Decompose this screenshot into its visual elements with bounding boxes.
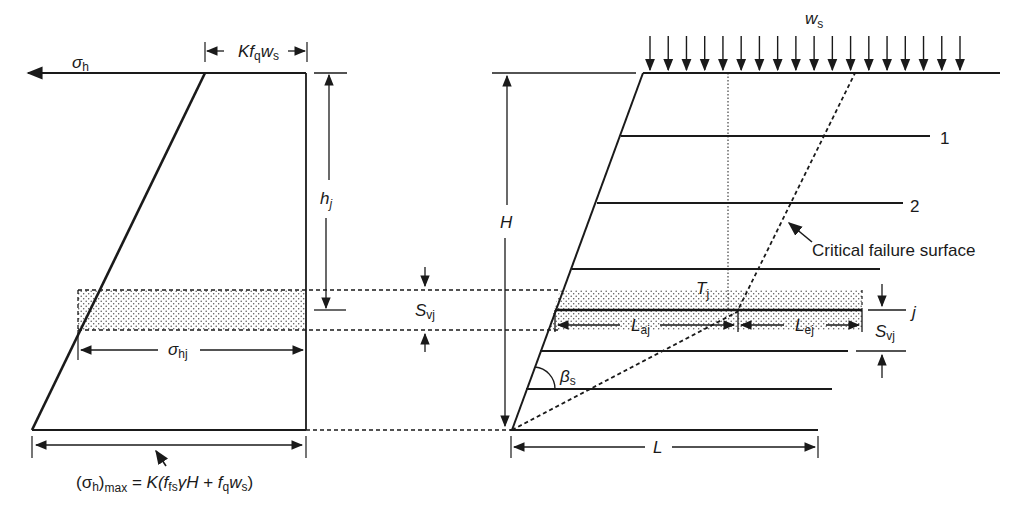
ws-label: ws: [805, 9, 823, 31]
H-label: H: [500, 213, 513, 232]
svj-label-right: Svj: [875, 322, 895, 343]
failure-surface-pointer: [789, 223, 812, 242]
sigma-hj-label: σhj: [168, 340, 188, 361]
svj-label-middle: Svj: [415, 301, 435, 322]
layer-label-1: 1: [940, 129, 949, 148]
mse-wall-diagram: σh Kfqws hj σhj (σh)max = K(ffsγH + fqws…: [0, 0, 1025, 514]
wall-facing-line: [512, 73, 643, 430]
Tj-label: Tj: [696, 279, 709, 301]
right-wall-diagram: ws H 1 2 j Critical failure surface Tj: [492, 9, 1000, 458]
kfqws-label: Kfqws: [238, 42, 279, 63]
L-label: L: [653, 438, 662, 457]
max-pointer-arrow: [156, 451, 166, 466]
layer-label-2: 2: [910, 197, 919, 216]
hj-label: hj: [320, 189, 332, 211]
layer-label-j: j: [910, 303, 917, 322]
sigma-h-label: σh: [72, 53, 89, 74]
pressure-distribution-line: [32, 73, 205, 430]
beta-s-angle-arc: [535, 367, 555, 389]
critical-failure-surface-label: Critical failure surface: [812, 241, 975, 260]
middle-spacing-dimension: Svj: [306, 267, 510, 430]
beta-s-label: βs: [559, 367, 576, 388]
surcharge-arrows: [650, 36, 960, 70]
sigma-h-max-formula: (σh)max = K(ffsγH + fqws): [76, 473, 253, 495]
left-pressure-diagram: σh Kfqws hj σhj (σh)max = K(ffsγH + fqws…: [28, 42, 560, 495]
shaded-tributary-zone-left: [78, 290, 306, 330]
